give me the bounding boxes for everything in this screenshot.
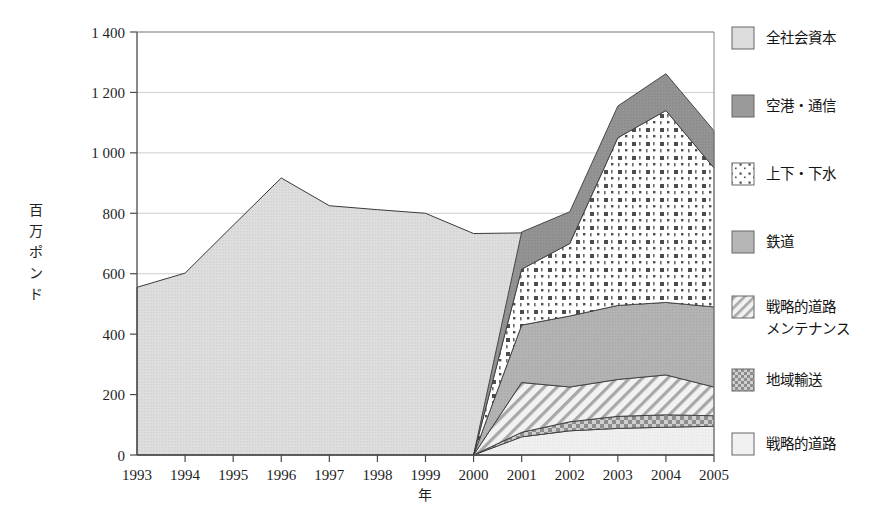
legend-label: 戦略的道路 — [766, 299, 837, 315]
y-axis-title-char: ポ — [29, 244, 43, 260]
y-tick-label: 800 — [103, 206, 126, 222]
legend-label: 上下・下水 — [766, 166, 837, 182]
x-tick-label: 1997 — [314, 467, 345, 483]
y-tick-label: 600 — [103, 266, 126, 282]
legend-label-line2: メンテナンス — [766, 321, 850, 337]
legend-swatch — [732, 296, 754, 318]
chart-container: 02004006008001 0001 2001 400 19931994199… — [0, 0, 873, 526]
x-tick-label: 1995 — [218, 467, 248, 483]
y-axis-title-char: 万 — [29, 223, 43, 239]
legend-label: 全社会資本 — [766, 29, 836, 46]
y-axis-title-char: ン — [29, 265, 43, 281]
chart-legend: 全社会資本空港・通信上下・下水鉄道戦略的道路メンテナンス地域輸送戦略的道路 — [732, 27, 850, 455]
y-tick-label: 200 — [103, 387, 126, 403]
x-tick-label: 2005 — [699, 467, 729, 483]
x-tick-label: 1998 — [362, 467, 392, 483]
legend-label: 地域輸送 — [766, 372, 823, 388]
x-axis-ticks: 1993199419951996199719981999200020012002… — [122, 455, 729, 483]
area-total_social_capital — [137, 178, 522, 455]
x-tick-label: 1994 — [170, 467, 201, 483]
y-axis-ticks: 02004006008001 0001 2001 400 — [91, 25, 137, 464]
x-tick-label: 2001 — [507, 467, 537, 483]
y-tick-label: 400 — [103, 327, 126, 343]
x-tick-label: 2000 — [459, 467, 489, 483]
x-tick-label: 1993 — [122, 467, 152, 483]
y-axis-title: 百万ポンド — [29, 202, 43, 302]
x-tick-label: 1996 — [266, 467, 297, 483]
x-tick-label: 2002 — [555, 467, 585, 483]
x-tick-label: 2004 — [651, 467, 682, 483]
y-axis-title-char: 百 — [29, 202, 43, 218]
legend-label: 戦略的道路 — [766, 436, 837, 452]
legend-swatch — [732, 433, 754, 455]
area-chart: 02004006008001 0001 2001 400 19931994199… — [0, 0, 873, 526]
legend-swatch — [732, 163, 754, 185]
y-tick-label: 1 400 — [91, 25, 125, 41]
y-tick-label: 0 — [118, 448, 126, 464]
legend-swatch — [732, 27, 754, 49]
legend-swatch — [732, 95, 754, 117]
y-axis-title-char: ド — [29, 286, 43, 302]
legend-swatch — [732, 231, 754, 253]
y-tick-label: 1 200 — [91, 85, 125, 101]
x-tick-label: 2003 — [603, 467, 633, 483]
x-axis-title-label: 年 — [418, 487, 432, 503]
legend-swatch — [732, 369, 754, 391]
legend-label: 空港・通信 — [766, 98, 836, 114]
y-tick-label: 1 000 — [91, 145, 125, 161]
legend-label: 鉄道 — [766, 234, 794, 250]
x-tick-label: 1999 — [411, 467, 441, 483]
stacked-areas — [137, 74, 714, 455]
